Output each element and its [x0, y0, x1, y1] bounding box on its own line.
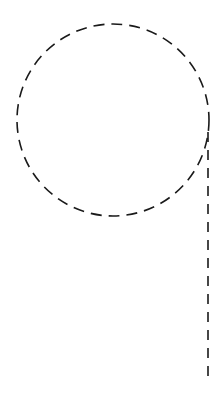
dashed-circle — [17, 24, 209, 216]
diagram-canvas — [0, 0, 221, 393]
